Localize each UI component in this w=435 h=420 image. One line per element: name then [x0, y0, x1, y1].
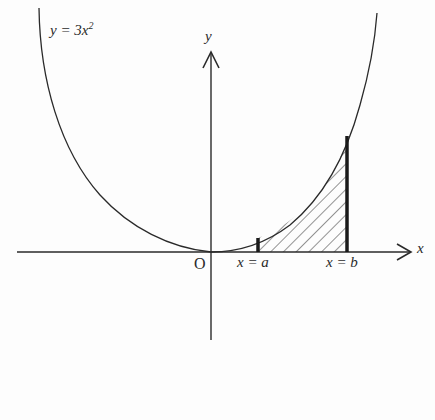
- y-axis-label: y: [205, 28, 212, 45]
- bound-b-label: x = b: [326, 254, 358, 271]
- parabola-area-diagram: y = 3x2 y x O x = a x = b: [0, 0, 435, 420]
- equation-label: y = 3x2: [50, 20, 93, 39]
- bound-a-label: x = a: [237, 254, 269, 271]
- equation-exponent: 2: [88, 20, 93, 31]
- diagram-graphics: [0, 0, 435, 420]
- x-axis-label: x: [417, 240, 424, 257]
- equation-text: y = 3x: [50, 22, 88, 38]
- origin-label: O: [194, 255, 206, 273]
